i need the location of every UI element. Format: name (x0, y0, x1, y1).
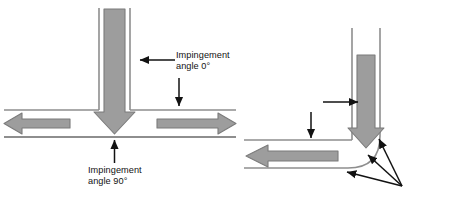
label-line-2: angle 90° (88, 176, 142, 187)
label-line-2: angle 0° (176, 61, 230, 72)
impingement-angle-figure: Impingement angle 0° Impingement angle 9… (0, 0, 463, 200)
deflected-right-arrow-shape (157, 113, 236, 134)
leader-arrow-elbow-upper (379, 139, 402, 186)
label-line-1: Impingement (176, 50, 230, 60)
label-impingement-angle-90: Impingement angle 90° (88, 165, 142, 188)
label-impingement-angle-0-left: Impingement angle 0° (176, 50, 230, 73)
outgoing-left-arrow (246, 145, 338, 167)
panel-elbow-bend: Impingement angle 0° Impingement 0°<Angl… (230, 0, 463, 200)
panel-flat-surface: Impingement angle 0° Impingement angle 9… (0, 0, 240, 200)
deflected-left-arrow-shape (4, 113, 70, 134)
incoming-jet-arrow (94, 9, 135, 134)
label-line-1: Impingement (88, 165, 142, 175)
